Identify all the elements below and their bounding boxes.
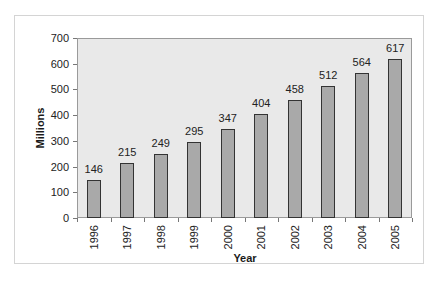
x-tick-label: 2004 [356,225,368,255]
y-tick-label: 100 [29,186,69,198]
y-tick-mark [73,141,77,142]
data-label: 404 [241,97,281,109]
bar-1998 [154,154,168,218]
x-tick-label: 1998 [155,225,167,255]
x-tick-mark [412,218,413,222]
x-tick-label: 1997 [121,225,133,255]
bar-2004 [355,73,369,218]
x-tick-label: 2001 [255,225,267,255]
y-tick-mark [73,64,77,65]
x-axis-title: Year [225,252,265,264]
y-tick-mark [73,115,77,116]
bar-2001 [254,114,268,218]
bar-2000 [221,129,235,218]
y-tick-mark [73,192,77,193]
x-tick-label: 1996 [88,225,100,255]
x-tick-mark [312,218,313,222]
bar-1997 [120,163,134,218]
x-tick-mark [379,218,380,222]
bar-1999 [187,142,201,218]
y-tick-label: 500 [29,83,69,95]
data-label: 617 [375,42,415,54]
x-tick-mark [345,218,346,222]
x-tick-label: 1999 [188,225,200,255]
y-tick-label: 200 [29,161,69,173]
data-label: 295 [174,125,214,137]
y-tick-label: 600 [29,58,69,70]
x-tick-mark [144,218,145,222]
data-label: 146 [74,163,114,175]
data-label: 458 [275,83,315,95]
x-tick-mark [278,218,279,222]
bar-1996 [87,180,101,218]
data-label: 249 [141,137,181,149]
x-tick-mark [245,218,246,222]
x-tick-mark [77,218,78,222]
data-label: 347 [208,112,248,124]
bar-2002 [288,100,302,218]
x-tick-label: 2003 [322,225,334,255]
x-tick-mark [211,218,212,222]
x-tick-mark [178,218,179,222]
x-tick-label: 2002 [289,225,301,255]
x-tick-label: 2000 [222,225,234,255]
bar-2005 [388,59,402,218]
y-tick-label: 700 [29,32,69,44]
data-label: 564 [342,56,382,68]
y-axis-title: Millions [34,102,46,154]
y-tick-label: 0 [29,212,69,224]
x-tick-label: 2005 [389,225,401,255]
bar-2003 [321,86,335,218]
y-tick-mark [73,38,77,39]
y-tick-mark [73,89,77,90]
data-label: 512 [308,69,348,81]
x-tick-mark [111,218,112,222]
